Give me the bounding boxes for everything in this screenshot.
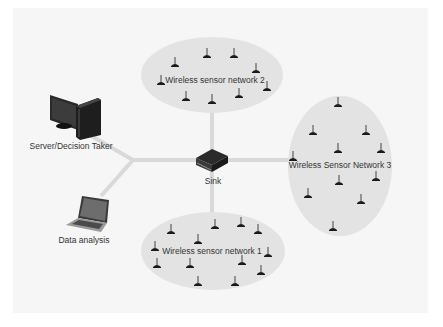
- link-laptop-junction: [101, 160, 133, 196]
- sink-box-icon: [196, 149, 228, 172]
- cluster-label-wsn3: Wireless Sensor Network 3: [289, 160, 392, 170]
- sink-label: Sink: [205, 176, 222, 186]
- cluster-label-wsn2: Wireless sensor network 2: [165, 75, 265, 85]
- cluster-label-wsn1: Wireless sensor network 1: [162, 246, 262, 256]
- laptop-icon: [66, 196, 109, 232]
- network-diagram: Server/Decision Taker Data analysis Sink…: [0, 0, 443, 327]
- laptop-label: Data analysis: [58, 235, 109, 245]
- server-label: Server/Decision Taker: [30, 141, 113, 151]
- links: [88, 112, 292, 213]
- desktop-computer-icon: [50, 95, 101, 140]
